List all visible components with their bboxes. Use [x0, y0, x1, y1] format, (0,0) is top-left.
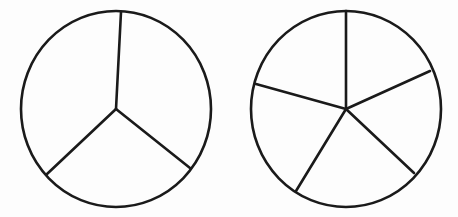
diagram-canvas: [0, 0, 458, 217]
sector-divider-line: [116, 109, 190, 168]
sector-divider-line: [116, 12, 121, 109]
circle-divided-into-fifths: [251, 11, 441, 207]
sector-divider-line: [47, 109, 116, 174]
circle-divided-into-thirds: [21, 11, 211, 207]
sector-divider-line: [346, 71, 430, 109]
sector-divider-line: [296, 109, 346, 191]
sector-divider-line: [256, 84, 346, 109]
sector-divider-line: [346, 109, 414, 173]
